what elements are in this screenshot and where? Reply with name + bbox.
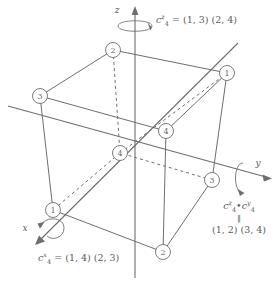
cube-symmetry-figure: 2 1 3 4 4 3 bbox=[0, 0, 277, 288]
c4x-symbol-sub: 4 bbox=[47, 258, 51, 266]
vertex-4-back-right: 4 bbox=[159, 124, 174, 139]
c4z-equals: = bbox=[172, 14, 180, 25]
z-axis-label: z bbox=[114, 5, 120, 15]
vertex-label: 4 bbox=[117, 149, 122, 158]
c4x-cycles: (1, 4) (2, 3) bbox=[65, 252, 119, 263]
y-rotation-arc bbox=[236, 163, 244, 193]
vertex-label: 4 bbox=[163, 127, 168, 136]
product-line-2: ‖ bbox=[202, 214, 276, 224]
vertex-label: 1 bbox=[224, 69, 229, 78]
y-axis-line bbox=[8, 106, 266, 177]
c4z-symbol-sub: 4 bbox=[165, 20, 169, 28]
product-line-1: cz4•cy4 bbox=[202, 199, 276, 214]
vertex-label: 3 bbox=[37, 92, 42, 101]
c4z-permutation-annotation: cz4 = (1, 3) (2, 4) bbox=[156, 13, 237, 28]
cube-diagram-svg: 2 1 3 4 4 3 bbox=[0, 0, 277, 288]
vertex-label: 2 bbox=[160, 248, 165, 257]
c4z-cycles: (1, 3) (2, 4) bbox=[183, 14, 237, 25]
y-axis-label: y bbox=[254, 158, 261, 168]
x-rotation-arrowhead bbox=[38, 222, 45, 229]
edge-top-1-4 bbox=[166, 73, 227, 131]
y-axis-arrowhead bbox=[263, 175, 273, 182]
y-rotation-arrowhead bbox=[238, 189, 245, 196]
vertex-label: 1 bbox=[50, 206, 55, 215]
vertex-label: 3 bbox=[209, 176, 214, 185]
body-diagonal-4c-1tr-hidden bbox=[120, 73, 227, 153]
c4x-equals: = bbox=[54, 252, 62, 263]
vertex-3-right: 3 bbox=[205, 173, 220, 188]
edge-top-4-3 bbox=[40, 96, 166, 131]
vertex-1-top-right: 1 bbox=[220, 66, 235, 81]
x-axis-label: x bbox=[22, 223, 27, 233]
edge-top-3-2 bbox=[40, 50, 113, 96]
product-line-3: (1, 2) (3, 4) bbox=[202, 224, 276, 236]
z-axis-arrowhead bbox=[132, 6, 139, 15]
vertex-2-top: 2 bbox=[106, 43, 121, 58]
edge-bottom-4-1-hidden bbox=[53, 153, 120, 210]
edge-top-2-1 bbox=[113, 50, 227, 73]
vertex-1-bottom-left: 1 bbox=[46, 203, 61, 218]
vertex-2-bottom: 2 bbox=[156, 245, 171, 260]
vertex-4-center: 4 bbox=[113, 146, 128, 161]
edge-bottom-1-2 bbox=[53, 210, 163, 252]
cube-edges bbox=[40, 50, 227, 252]
product-sub-2: 4 bbox=[251, 206, 255, 214]
product-permutation-annotation: cz4•cy4 ‖ (1, 2) (3, 4) bbox=[202, 199, 276, 236]
vertex-label: 2 bbox=[110, 46, 115, 55]
edge-vertical-2-4-hidden bbox=[113, 50, 120, 153]
vertex-3-left: 3 bbox=[33, 89, 48, 104]
c4x-permutation-annotation: cx4 = (1, 4) (2, 3) bbox=[38, 251, 119, 266]
edge-vertical-3-1 bbox=[40, 96, 53, 210]
axis-group bbox=[8, 6, 272, 278]
